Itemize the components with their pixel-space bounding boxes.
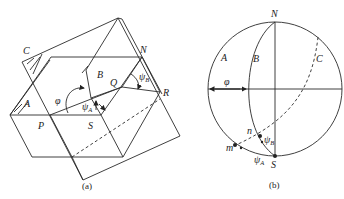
label-a: A [220, 52, 228, 63]
label-b: B [253, 53, 259, 64]
point-m [233, 143, 237, 147]
point-s [273, 154, 277, 158]
label-psi-b: ψB [139, 71, 149, 83]
point-n [258, 134, 262, 138]
caption-a: (a) [82, 181, 92, 191]
label-n: n [247, 125, 252, 136]
caption-b: (b) [269, 180, 280, 190]
label-phi: φ [224, 76, 230, 87]
label-phi: φ [55, 95, 61, 106]
psi-b-angle-arc [131, 74, 139, 89]
label-s: S [88, 120, 93, 131]
label-s-pole: S [271, 159, 276, 170]
label-n-pole: N [270, 8, 279, 19]
label-psi-a: ψA [254, 154, 264, 166]
label-p: P [37, 120, 44, 131]
label-psi-b: ψB [264, 134, 274, 146]
label-q: Q [110, 77, 118, 88]
label-b: B [97, 69, 103, 80]
label-m: m [226, 142, 233, 153]
label-c: C [316, 53, 323, 64]
label-psi-a: ψA [82, 101, 92, 113]
label-a: A [23, 98, 31, 109]
figure-b-stereonet: N S A B C φ n m ψB ψA (b) [208, 8, 342, 190]
label-r: R [162, 87, 169, 98]
figure-a-block-diagram: C N B Q R A P S φ ψA ψB (a) [10, 18, 180, 191]
label-n: N [139, 44, 148, 55]
diagram-canvas: C N B Q R A P S φ ψA ψB (a) N S A [0, 0, 344, 199]
label-c: C [23, 45, 30, 56]
